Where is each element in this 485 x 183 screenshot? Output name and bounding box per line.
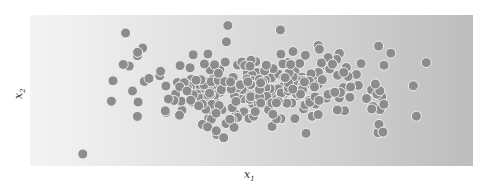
x-axis-label-sub: 1 xyxy=(250,175,254,183)
data-point xyxy=(106,96,116,106)
data-point xyxy=(286,60,296,70)
data-point xyxy=(310,82,320,92)
data-point xyxy=(332,105,342,115)
data-point xyxy=(211,108,221,118)
data-point xyxy=(271,98,281,108)
data-point xyxy=(280,73,290,83)
data-point xyxy=(133,97,143,107)
data-point xyxy=(203,49,213,59)
data-point xyxy=(378,127,388,137)
data-point xyxy=(225,114,235,124)
data-point xyxy=(386,48,396,58)
data-point xyxy=(288,84,298,94)
data-point xyxy=(275,25,285,35)
data-point xyxy=(245,61,255,71)
data-point xyxy=(221,37,231,47)
data-point xyxy=(374,41,384,51)
data-point xyxy=(299,77,309,87)
data-point xyxy=(213,68,223,78)
data-point xyxy=(156,66,166,76)
data-point xyxy=(133,47,143,57)
y-axis-label: x2 xyxy=(12,88,27,99)
data-point xyxy=(328,59,338,69)
data-point xyxy=(408,81,418,91)
scatter-points xyxy=(30,15,473,166)
y-axis-label-sub: 2 xyxy=(19,88,27,92)
data-point xyxy=(182,86,192,96)
scatter-plot-area xyxy=(30,15,473,166)
data-point xyxy=(288,47,298,57)
data-point xyxy=(379,60,389,70)
data-point xyxy=(231,96,241,106)
data-point xyxy=(132,111,142,121)
data-point xyxy=(356,59,366,69)
data-point xyxy=(261,60,271,70)
data-point xyxy=(290,114,300,124)
data-point xyxy=(339,67,349,77)
data-point xyxy=(185,63,195,73)
data-point xyxy=(220,57,230,67)
data-point xyxy=(411,111,421,121)
data-point xyxy=(250,107,260,117)
data-point xyxy=(362,94,372,104)
data-point xyxy=(175,61,185,71)
data-point xyxy=(346,82,356,92)
data-point xyxy=(121,28,131,38)
data-point xyxy=(128,86,138,96)
data-point xyxy=(188,50,198,60)
data-point xyxy=(175,110,185,120)
data-point xyxy=(295,58,305,68)
data-point xyxy=(118,60,128,70)
x-axis-label: x1 xyxy=(244,168,255,183)
data-point xyxy=(301,128,311,138)
data-point xyxy=(243,77,253,87)
data-point xyxy=(370,79,380,89)
data-point xyxy=(160,106,170,116)
data-point xyxy=(199,59,209,69)
data-point xyxy=(314,44,324,54)
data-point xyxy=(268,109,278,119)
data-point xyxy=(330,87,340,97)
data-point xyxy=(191,75,201,85)
y-axis-label-main: x xyxy=(12,93,25,99)
data-point xyxy=(379,99,389,109)
data-point xyxy=(345,92,355,102)
data-point xyxy=(276,49,286,59)
data-point xyxy=(144,73,154,83)
data-point xyxy=(317,75,327,85)
data-point xyxy=(108,76,118,86)
data-point xyxy=(313,110,323,120)
data-point xyxy=(367,104,377,114)
data-point xyxy=(219,133,229,143)
data-point xyxy=(223,21,233,31)
data-point xyxy=(205,88,215,98)
data-point xyxy=(314,95,324,105)
data-point xyxy=(186,95,196,105)
data-point xyxy=(226,77,236,87)
data-point xyxy=(78,149,88,159)
data-point xyxy=(256,78,266,88)
data-point xyxy=(161,81,171,91)
data-point xyxy=(421,58,431,68)
data-point xyxy=(163,94,173,104)
